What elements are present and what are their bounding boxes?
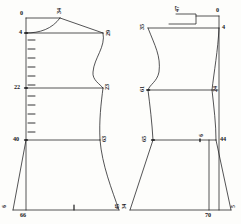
- left-scale-ticks: [28, 40, 35, 132]
- right-label-waist-right: 24: [212, 86, 218, 92]
- left-label-shoulder-top: 34: [56, 8, 62, 14]
- left-label-neck: 4: [19, 29, 22, 35]
- left-neck-curve: [26, 18, 60, 33]
- right-center-back-seam-lower: [212, 90, 216, 140]
- right-label-waist-left: 61: [139, 86, 145, 92]
- pattern-drawing: [0, 0, 241, 224]
- right-center-back-seam-upper: [212, 28, 219, 90]
- left-label-hip: 40: [13, 136, 19, 142]
- left-armhole-curve: [93, 33, 104, 88]
- right-side-curve-lower: [148, 90, 153, 140]
- left-label-hem-right-b: 34: [122, 204, 127, 209]
- right-label-neck-right: 4: [222, 24, 225, 30]
- right-hem-flare-left: [130, 140, 153, 210]
- left-shoulder-line: [60, 18, 103, 33]
- right-label-hip-mid: 6: [199, 134, 204, 137]
- right-level-nodes: [147, 90, 200, 142]
- right-label-hip-right: 44: [220, 136, 226, 142]
- left-side-seam-upper: [100, 88, 103, 140]
- right-label-neck-left: 35: [139, 24, 145, 30]
- right-hem-flare-right: [216, 140, 231, 210]
- pattern-sheet: 0 34 4 29 22 23 40 63 6 66 45 34 47 0 35…: [0, 0, 241, 224]
- right-label-top-mark: 47: [174, 6, 180, 12]
- left-label-shoulder-point: 29: [105, 30, 111, 36]
- left-label-hem-right-a: 45: [115, 204, 120, 209]
- left-label-hem-center: 66: [20, 212, 26, 218]
- right-label-top-zero: 0: [216, 7, 219, 13]
- left-label-top-zero: 0: [20, 10, 23, 16]
- right-label-hem-right: 5: [231, 205, 236, 208]
- right-side-curve-upper: [148, 28, 159, 90]
- left-label-bust: 22: [14, 84, 20, 90]
- left-label-hem-left: 6: [2, 205, 7, 208]
- right-top-step-mark: [169, 14, 196, 24]
- right-label-hip-left: 65: [141, 136, 147, 142]
- left-side-seam-lower: [100, 140, 119, 210]
- left-hem-flare-line: [13, 140, 26, 210]
- left-label-side-hip: 63: [101, 136, 107, 142]
- right-label-hem-center: 70: [205, 212, 211, 218]
- left-label-underarm: 23: [104, 84, 110, 90]
